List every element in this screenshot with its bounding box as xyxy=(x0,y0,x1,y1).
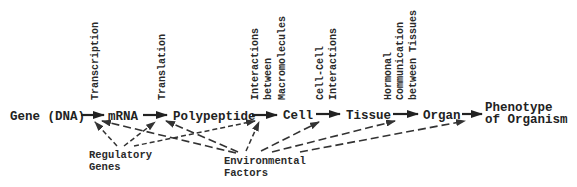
label-communication: Communication xyxy=(395,22,406,100)
label-regulatory: Regulatory xyxy=(89,149,153,161)
node-gene-dna: Gene (DNA) xyxy=(10,110,85,124)
env-arrow-to-cell xyxy=(246,122,259,151)
label-factors: Factors xyxy=(224,167,268,179)
node-cell: Cell xyxy=(283,109,313,123)
label-macromolecules: Macromolecules xyxy=(277,16,288,100)
label-between: between xyxy=(263,58,274,100)
label-environmental: Environmental xyxy=(224,155,306,167)
node-phenotype-line2: of Organism xyxy=(485,113,568,127)
label-between-tissues: between Tissues xyxy=(408,10,419,100)
label-genes: Genes xyxy=(89,161,121,173)
env-arrow-to-phenotype xyxy=(300,121,465,152)
node-tissue: Tissue xyxy=(346,109,391,123)
label-interactions: Interactions xyxy=(250,28,261,100)
label-translation: Translation xyxy=(157,34,168,100)
label-hormonal: Hormonal xyxy=(383,52,394,100)
reg-arrow-to-mrna xyxy=(95,122,117,146)
label-interactions-2: Interactions xyxy=(328,28,339,100)
node-organ: Organ xyxy=(423,109,461,123)
gene-to-phenotype-diagram: Gene (DNA) mRNA Polypeptide Cell Tissue … xyxy=(0,0,577,187)
label-cell-cell: Cell-Cell xyxy=(315,46,326,100)
label-transcription: Transcription xyxy=(90,22,101,100)
env-arrow-to-organ xyxy=(272,121,395,152)
node-polypeptide: Polypeptide xyxy=(173,110,256,124)
node-mrna: mRNA xyxy=(108,110,139,124)
